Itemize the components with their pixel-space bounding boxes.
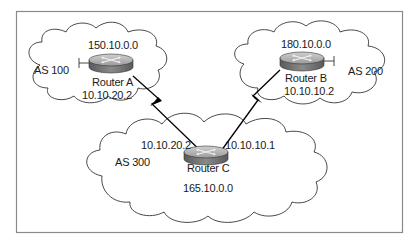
router-a-ip: 10.10.20.2	[82, 89, 132, 101]
router-b-network: 180.10.0.0	[281, 38, 331, 50]
as100-label: AS 100	[34, 64, 69, 76]
router-c-label: Router C	[187, 162, 230, 174]
router-icon	[280, 52, 324, 71]
network-diagram: AS 100 150.10.0.0 Router A 10.10.20.2 18…	[0, 0, 418, 241]
router-b-label: Router B	[285, 72, 327, 84]
router-b-ip: 10.10.10.2	[284, 85, 334, 97]
router-c-network: 165.10.0.0	[183, 182, 233, 194]
as200-label: AS 200	[348, 65, 383, 77]
router-c-ip-right: 10.10.10.1	[225, 139, 275, 151]
router-a-label: Router A	[92, 76, 134, 88]
router-c-ip-left: 10.10.20.2	[141, 139, 191, 151]
router-a-network: 150.10.0.0	[88, 39, 138, 51]
router-icon	[89, 54, 133, 73]
as300-label: AS 300	[115, 156, 150, 168]
